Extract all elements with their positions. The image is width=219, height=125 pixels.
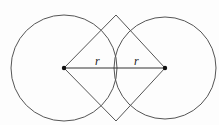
radius-label-right: r bbox=[134, 54, 139, 68]
right-center-point bbox=[163, 66, 167, 70]
left-center-point bbox=[62, 66, 66, 70]
two-circles-diagram: r r bbox=[0, 0, 219, 125]
radius-label-left: r bbox=[95, 54, 100, 68]
